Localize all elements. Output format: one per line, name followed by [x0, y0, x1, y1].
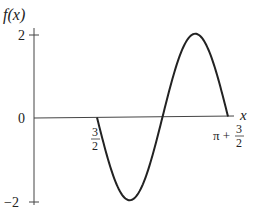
svg-text:2: 2 [92, 139, 98, 153]
y-tick-label-neg2: −2 [4, 195, 19, 210]
y-tick-label-2: 2 [18, 28, 25, 43]
x-tick-label-end: π + 3 2 [213, 122, 244, 150]
x-axis [34, 116, 234, 118]
function-graph: f(x) 2 0 −2 x 3 2 π + 3 2 [0, 0, 257, 215]
svg-text:3: 3 [236, 122, 242, 136]
y-tick-label-0: 0 [18, 111, 25, 126]
svg-text:2: 2 [236, 136, 242, 150]
svg-text:3: 3 [92, 125, 98, 139]
x-axis-label: x [239, 107, 247, 123]
y-axis-label: f(x) [3, 6, 25, 24]
x-tick-label-start: 3 2 [91, 125, 100, 153]
svg-text:π +: π + [213, 128, 230, 143]
